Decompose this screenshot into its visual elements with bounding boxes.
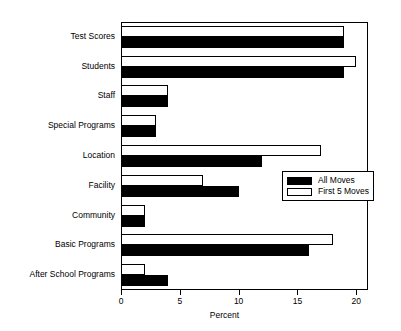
bar-first-5-moves-facility	[121, 175, 203, 186]
bar-first-5-moves-after-school-programs	[121, 264, 145, 275]
bar-first-5-moves-community	[121, 205, 145, 216]
x-axis-tick-15	[297, 290, 298, 295]
bar-first-5-moves-special-programs	[121, 115, 156, 126]
bar-all-moves-staff	[121, 96, 168, 107]
y-axis-label-location: Location	[83, 151, 115, 160]
bar-all-moves-students	[121, 67, 344, 78]
y-axis-label-facility: Facility	[89, 181, 115, 190]
x-axis-tick-label-15: 15	[285, 296, 309, 306]
bar-chart: Test ScoresStudentsStaffSpecial Programs…	[0, 0, 401, 331]
chart-legend: All Moves First 5 Moves	[282, 171, 374, 201]
x-axis-tick-label-10: 10	[227, 296, 251, 306]
legend-entry-all-moves: All Moves	[287, 175, 369, 186]
legend-label-first-5-moves: First 5 Moves	[318, 187, 369, 196]
x-axis-tick-5	[180, 290, 181, 295]
y-axis-tick-special-programs	[121, 126, 126, 127]
x-axis-tick-label-0: 0	[109, 296, 133, 306]
x-axis-tick-label-20: 20	[344, 296, 368, 306]
y-axis-tick-basic-programs	[121, 245, 126, 246]
bar-all-moves-test-scores	[121, 37, 344, 48]
bar-all-moves-after-school-programs	[121, 275, 168, 286]
y-axis-label-community: Community	[72, 211, 115, 220]
y-axis-label-students: Students	[81, 62, 115, 71]
x-axis-tick-10	[239, 290, 240, 295]
bar-first-5-moves-basic-programs	[121, 234, 333, 245]
legend-entry-first-5-moves: First 5 Moves	[287, 186, 369, 197]
y-axis-tick-students	[121, 67, 126, 68]
legend-swatch-first-5-moves	[287, 188, 312, 196]
y-axis-tick-facility	[121, 186, 126, 187]
legend-label-all-moves: All Moves	[318, 176, 355, 185]
x-axis-tick-label-5: 5	[168, 296, 192, 306]
x-axis-tick-0	[121, 290, 122, 295]
bar-first-5-moves-students	[121, 56, 356, 67]
bar-all-moves-basic-programs	[121, 245, 309, 256]
bar-all-moves-community	[121, 216, 145, 227]
bar-first-5-moves-test-scores	[121, 26, 344, 37]
y-axis-tick-after-school-programs	[121, 275, 126, 276]
y-axis-label-basic-programs: Basic Programs	[55, 240, 115, 249]
y-axis-label-test-scores: Test Scores	[71, 32, 115, 41]
y-axis-tick-test-scores	[121, 37, 126, 38]
bar-first-5-moves-location	[121, 145, 321, 156]
legend-swatch-all-moves	[287, 177, 312, 185]
y-axis-tick-community	[121, 216, 126, 217]
x-axis-tick-20	[356, 290, 357, 295]
bar-all-moves-facility	[121, 186, 239, 197]
bar-all-moves-location	[121, 156, 262, 167]
y-axis-tick-staff	[121, 96, 126, 97]
bar-first-5-moves-staff	[121, 85, 168, 96]
y-axis-label-after-school-programs: After School Programs	[29, 270, 115, 279]
y-axis-label-special-programs: Special Programs	[48, 121, 115, 130]
x-axis-title-text: Percent	[210, 310, 239, 320]
y-axis-label-staff: Staff	[98, 91, 115, 100]
y-axis-tick-location	[121, 156, 126, 157]
y-axis-labels: Test ScoresStudentsStaffSpecial Programs…	[0, 22, 115, 290]
x-axis-title: Percent	[0, 310, 401, 320]
bar-all-moves-special-programs	[121, 126, 156, 137]
